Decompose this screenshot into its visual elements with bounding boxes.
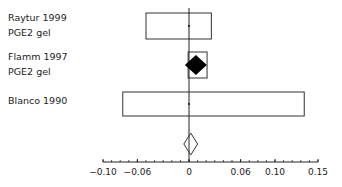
estimate-point — [188, 103, 190, 105]
ci-box — [123, 92, 304, 116]
x-axis: −0.10−0.0600.060.100.15 — [89, 159, 328, 177]
study-label: Blanco 1990 — [8, 95, 67, 106]
tick-label: −0.06 — [124, 167, 152, 177]
summary-diamond — [184, 133, 198, 155]
tick-label: −0.10 — [89, 167, 117, 177]
study-label: PGE2 gel — [8, 27, 51, 38]
summary-diamond-shape — [184, 133, 198, 155]
study-label: PGE2 gel — [8, 66, 51, 77]
estimate-point — [188, 25, 190, 27]
forest-plot: Raytur 1999PGE2 gelFlamm 1997PGE2 gelBla… — [0, 0, 342, 187]
ci-boxes — [123, 13, 304, 116]
study-label: Flamm 1997 — [8, 51, 68, 62]
ci-box — [146, 13, 211, 39]
tick-label: 0.10 — [265, 167, 285, 177]
tick-label: 0 — [186, 167, 192, 177]
study-label: Raytur 1999 — [8, 12, 67, 23]
study-labels: Raytur 1999PGE2 gelFlamm 1997PGE2 gelBla… — [8, 12, 68, 106]
tick-label: 0.15 — [308, 167, 328, 177]
tick-label: 0.06 — [231, 167, 251, 177]
